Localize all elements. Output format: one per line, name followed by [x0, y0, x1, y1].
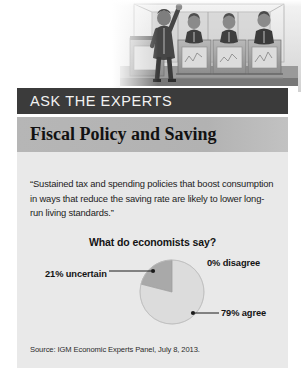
source-note: Source: IGM Economic Experts Panel, July…: [30, 345, 200, 354]
photo-illustration: [112, 0, 301, 92]
banner-label: ASK THE EXPERTS: [17, 93, 172, 109]
content-panel: “Sustained tax and spending policies tha…: [17, 152, 288, 368]
pie-label-uncertain: 21% uncertain: [45, 269, 107, 279]
pie-chart: 21% uncertain 0% disagree 79% agree: [17, 250, 288, 332]
ask-the-experts-figure: ASK THE EXPERTS Fiscal Policy and Saving…: [0, 0, 301, 377]
pie-label-disagree: 0% disagree: [207, 258, 260, 268]
ask-the-experts-banner: ASK THE EXPERTS: [17, 88, 288, 114]
page-title: Fiscal Policy and Saving: [17, 124, 217, 145]
chart-title: What do economists say?: [17, 236, 288, 248]
pie-label-agree: 79% agree: [221, 308, 266, 318]
title-band: Fiscal Policy and Saving: [17, 117, 288, 152]
experts-panel-photo: [112, 0, 301, 92]
expert-quote: “Sustained tax and spending policies tha…: [30, 177, 277, 220]
